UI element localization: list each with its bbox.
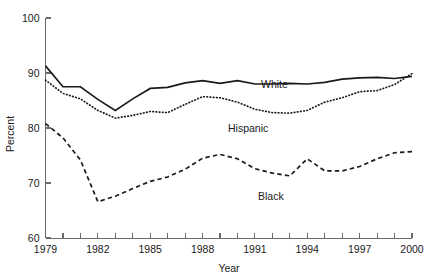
x-axis-title: Year <box>218 262 240 274</box>
x-tick-label: 1979 <box>34 243 58 255</box>
y-axis-title: Percent <box>4 116 16 152</box>
y-tick-marks <box>46 18 51 238</box>
y-tick-label: 70 <box>28 177 40 189</box>
x-tick-label: 1988 <box>191 243 215 255</box>
series-label-hispanic: Hispanic <box>228 122 268 134</box>
y-tick-label: 90 <box>28 67 40 79</box>
y-tick-label: 60 <box>28 232 40 244</box>
line-chart: 60708090100 1979198219851988199119941997… <box>0 0 426 279</box>
y-tick-label: 100 <box>22 12 40 24</box>
chart-svg: 60708090100 1979198219851988199119941997… <box>0 0 426 279</box>
x-tick-marks <box>46 233 413 238</box>
series-label-white: White <box>261 78 288 90</box>
plot-area: 60708090100 1979198219851988199119941997… <box>22 12 424 255</box>
x-tick-labels: 19791982198519881991199419972000 <box>34 243 424 255</box>
series-line-black <box>46 124 413 202</box>
series-line-hispanic <box>46 74 413 119</box>
x-tick-label: 1985 <box>139 243 163 255</box>
series-label-black: Black <box>258 190 284 202</box>
x-tick-label: 2000 <box>400 243 424 255</box>
x-tick-label: 1991 <box>243 243 267 255</box>
series-line-white <box>46 66 413 111</box>
y-tick-labels: 60708090100 <box>22 12 40 244</box>
x-tick-label: 1997 <box>348 243 372 255</box>
x-tick-label: 1994 <box>296 243 320 255</box>
y-tick-label: 80 <box>28 122 40 134</box>
x-tick-label: 1982 <box>86 243 110 255</box>
